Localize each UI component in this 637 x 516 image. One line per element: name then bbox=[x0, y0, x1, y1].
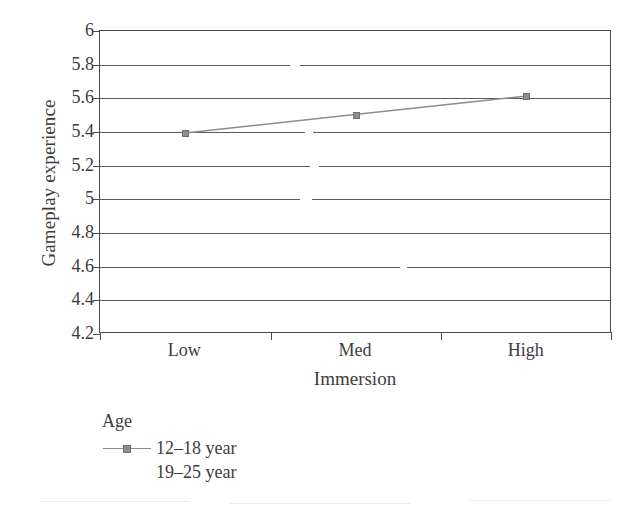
legend-entry-label: 12–18 year bbox=[156, 438, 236, 459]
y-tick-mark bbox=[93, 199, 100, 200]
y-tick-mark bbox=[93, 300, 100, 301]
scan-gap-artifact bbox=[305, 131, 313, 134]
data-point-marker bbox=[523, 93, 530, 100]
legend: Age 12–18 year19–25 year bbox=[100, 411, 360, 484]
legend-title: Age bbox=[102, 411, 360, 432]
y-tick-mark bbox=[93, 132, 100, 133]
x-tick-mark bbox=[271, 332, 272, 340]
y-tick-label: 4.2 bbox=[40, 324, 94, 342]
legend-key bbox=[100, 463, 156, 481]
y-tick-label: 5 bbox=[40, 189, 94, 207]
x-tick-label: High bbox=[466, 340, 586, 361]
scan-gap-artifact bbox=[300, 198, 312, 201]
x-axis-tick-labels: LowMedHigh bbox=[99, 340, 611, 366]
legend-entry-label: 19–25 year bbox=[156, 462, 236, 483]
y-tick-mark bbox=[93, 98, 100, 99]
gameplay-experience-line-chart: Gameplay experience 4.24.44.64.855.25.45… bbox=[0, 0, 637, 516]
y-tick-mark bbox=[93, 166, 100, 167]
x-tick-label: Low bbox=[124, 340, 244, 361]
plot-area bbox=[99, 30, 611, 333]
data-point-marker bbox=[353, 112, 360, 119]
y-tick-mark bbox=[93, 334, 100, 335]
y-tick-label: 6 bbox=[40, 21, 94, 39]
x-tick-mark bbox=[441, 332, 442, 340]
y-tick-mark bbox=[93, 233, 100, 234]
x-tick-mark bbox=[100, 332, 101, 340]
y-tick-label: 5.8 bbox=[40, 55, 94, 73]
y-tick-label: 5.4 bbox=[40, 122, 94, 140]
legend-entries: 12–18 year19–25 year bbox=[100, 436, 360, 484]
scan-artifact bbox=[470, 500, 610, 501]
x-axis-title: Immersion bbox=[99, 368, 611, 390]
y-tick-mark bbox=[93, 65, 100, 66]
y-tick-label: 5.2 bbox=[40, 156, 94, 174]
scan-gap-artifact bbox=[310, 164, 319, 167]
y-tick-label: 4.4 bbox=[40, 290, 94, 308]
scan-artifact bbox=[40, 501, 190, 502]
y-tick-label: 4.8 bbox=[40, 223, 94, 241]
legend-key bbox=[100, 439, 156, 457]
scan-gap-artifact bbox=[400, 265, 407, 268]
legend-entry: 12–18 year bbox=[100, 436, 360, 460]
y-tick-mark bbox=[93, 31, 100, 32]
y-tick-label: 5.6 bbox=[40, 88, 94, 106]
y-tick-label: 4.6 bbox=[40, 257, 94, 275]
y-axis-tick-labels: 4.24.44.64.855.25.45.65.86 bbox=[40, 30, 94, 333]
x-tick-mark bbox=[611, 332, 612, 340]
scan-artifact bbox=[230, 503, 410, 504]
legend-key-marker bbox=[123, 445, 131, 453]
legend-entry: 19–25 year bbox=[100, 460, 360, 484]
y-tick-mark bbox=[93, 267, 100, 268]
data-point-marker bbox=[182, 130, 189, 137]
x-tick-label: Med bbox=[295, 340, 415, 361]
series-lines bbox=[100, 31, 610, 332]
scan-gap-artifact bbox=[290, 63, 300, 66]
